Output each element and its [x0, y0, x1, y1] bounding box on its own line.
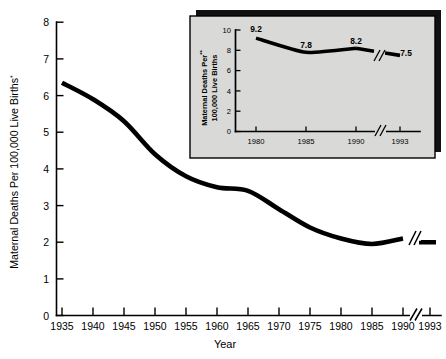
inset-ytick-10: 10 [223, 26, 231, 35]
inset-label-1980: 9.2 [250, 24, 262, 34]
inset-ytick-0: 0 [227, 127, 231, 136]
inset-xtick-1985: 1985 [298, 137, 315, 146]
main-ytick-8: 8 [43, 16, 49, 28]
inset-xtick-1980: 1980 [248, 137, 265, 146]
main-xtick-1950: 1950 [143, 320, 167, 332]
main-xtick-1970: 1970 [267, 320, 291, 332]
main-xtick-1955: 1955 [174, 320, 198, 332]
main-ytick-0: 0 [43, 310, 49, 322]
main-xtick-1985: 1985 [360, 320, 384, 332]
main-xtick-1965: 1965 [236, 320, 260, 332]
main-ytick-6: 6 [43, 90, 49, 102]
inset-ytick-8: 8 [227, 46, 231, 55]
main-x-ticks [62, 308, 430, 316]
inset-xtick-1990: 1990 [348, 137, 365, 146]
main-y-axis-title: Maternal Deaths Per 100,000 Live Births* [8, 75, 20, 269]
main-y-tick-labels: 0 1 2 3 4 5 6 7 8 [43, 16, 49, 321]
main-x-tick-labels: 1935 1940 1945 1950 1955 1960 1965 1970 … [50, 320, 442, 332]
inset-y-axis-title-line2: 100,000 Live Births [210, 55, 219, 122]
inset-label-1985: 7.8 [300, 40, 312, 50]
main-ytick-3: 3 [43, 200, 49, 212]
main-xtick-1935: 1935 [50, 320, 74, 332]
inset-ytick-6: 6 [227, 66, 231, 75]
inset-y-axis-title-line1: Maternal Deaths Per** [199, 49, 209, 125]
main-xtick-1993: 1993 [418, 320, 442, 332]
main-x-axis-break-icon [410, 309, 422, 321]
main-ytick-4: 4 [43, 163, 49, 175]
main-xtick-1960: 1960 [205, 320, 229, 332]
main-ytick-1: 1 [43, 273, 49, 285]
main-ytick-7: 7 [43, 53, 49, 65]
main-xtick-1990: 1990 [391, 320, 415, 332]
main-y-axis-title-text: Maternal Deaths Per 100,000 Live Births [8, 78, 20, 269]
inset-ytick-2: 2 [227, 107, 231, 116]
inset-ytick-4: 4 [227, 87, 231, 96]
main-xtick-1975: 1975 [298, 320, 322, 332]
main-y-axis-superscript: * [9, 75, 16, 78]
inset-chart-group: Maternal Deaths Per** 100,000 Live Birth… [190, 10, 441, 158]
inset-y-axis-superscript: ** [199, 49, 205, 54]
maternal-mortality-line-chart: Maternal Deaths Per 100,000 Live Births*… [0, 0, 446, 359]
inset-label-1993: 7.5 [400, 48, 412, 58]
main-y-ticks [57, 22, 64, 315]
main-xtick-1940: 1940 [81, 320, 105, 332]
inset-xtick-1993: 1993 [392, 137, 409, 146]
main-x-axis-title: Year [214, 338, 237, 350]
main-ytick-2: 2 [43, 236, 49, 248]
inset-label-1990: 8.2 [350, 36, 362, 46]
main-xtick-1980: 1980 [329, 320, 353, 332]
main-xtick-1945: 1945 [112, 320, 136, 332]
main-ytick-5: 5 [43, 126, 49, 138]
